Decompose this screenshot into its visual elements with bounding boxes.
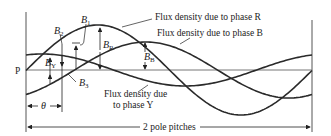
label-b2: B2 (54, 25, 64, 38)
label-phase-r: Flux density due to phase R (155, 12, 261, 22)
label-by: BY (45, 57, 56, 70)
label-theta: θ (41, 100, 46, 111)
label-phase-b: Flux density due to phase B (157, 28, 263, 38)
phase-r-leader (122, 19, 152, 27)
label-br: BR (103, 39, 114, 52)
flux-density-diagram: P B1 B2 BR BB BY B3 Flux density due to … (0, 0, 331, 136)
label-pole-pitch: 2 pole pitches (143, 122, 196, 132)
label-b3: B3 (79, 77, 89, 90)
baseline-label: P (15, 66, 20, 76)
label-phase-y-line1: Flux density due (104, 89, 167, 99)
b3-pointer (68, 74, 76, 82)
label-bb: BB (144, 51, 155, 64)
label-phase-y-line2: to phase Y (113, 100, 153, 110)
phase-b-leader (180, 38, 190, 44)
